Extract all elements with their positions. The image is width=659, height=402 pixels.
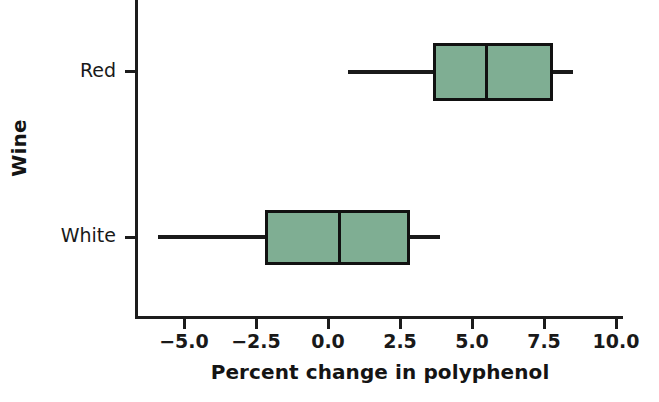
x-tick-label: 5.0 xyxy=(432,330,512,352)
x-axis-line xyxy=(135,316,623,319)
y-tick-label-red: Red xyxy=(0,59,116,81)
whisker-lower-red xyxy=(348,70,433,74)
x-tick-mark xyxy=(471,319,474,329)
median-line-white xyxy=(338,210,341,265)
x-tick-mark xyxy=(255,319,258,329)
x-tick-label: −5.0 xyxy=(144,330,224,352)
whisker-lower-white xyxy=(158,235,265,239)
y-tick-mark xyxy=(125,70,137,73)
y-axis-title: Wine xyxy=(7,103,31,193)
x-tick-label: 10.0 xyxy=(576,330,656,352)
x-tick-label: 2.5 xyxy=(360,330,440,352)
x-tick-mark xyxy=(399,319,402,329)
x-tick-label: 0.0 xyxy=(288,330,368,352)
box-red xyxy=(433,43,553,101)
x-tick-label: 7.5 xyxy=(504,330,584,352)
x-tick-mark xyxy=(183,319,186,329)
box-plot-figure: Wine Percent change in polyphenol RedWhi… xyxy=(0,0,659,402)
x-tick-mark xyxy=(327,319,330,329)
whisker-upper-white xyxy=(410,235,440,239)
y-tick-label-white: White xyxy=(0,224,116,246)
median-line-red xyxy=(485,43,488,101)
x-tick-mark xyxy=(543,319,546,329)
y-tick-mark xyxy=(125,236,137,239)
x-tick-mark xyxy=(615,319,618,329)
x-tick-label: −2.5 xyxy=(216,330,296,352)
y-axis-line xyxy=(135,0,138,319)
whisker-upper-red xyxy=(553,70,573,74)
x-axis-title: Percent change in polyphenol xyxy=(137,360,623,384)
